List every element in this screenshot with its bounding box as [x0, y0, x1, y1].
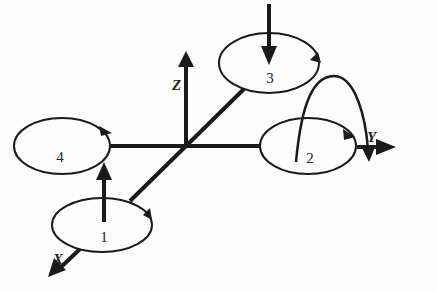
- z-axis-arrowhead: [178, 51, 194, 67]
- rotor-3: 3: [219, 4, 321, 93]
- rotor-4-label: 4: [56, 149, 64, 165]
- rotor-4-disc: [14, 118, 110, 174]
- quadrotor-diagram: 4 1 3 2 Z: [0, 0, 437, 292]
- rotor-4-rotation-arrow: [99, 126, 112, 136]
- rotor-2-label: 2: [306, 150, 314, 166]
- z-axis-label: Z: [171, 77, 181, 93]
- rotor-3-label: 3: [266, 70, 274, 86]
- rotor-1-label: 1: [100, 229, 108, 245]
- x-axis-label: X: [52, 251, 64, 267]
- arm-3-to-center: [186, 89, 244, 146]
- rotor-4: 4: [14, 118, 112, 174]
- rotor-1: 1: [52, 162, 152, 252]
- y-axis-arrowhead: [376, 139, 396, 155]
- rotor-2-arc-arrowhead: [362, 147, 375, 162]
- arm-center-to-1: [130, 146, 186, 201]
